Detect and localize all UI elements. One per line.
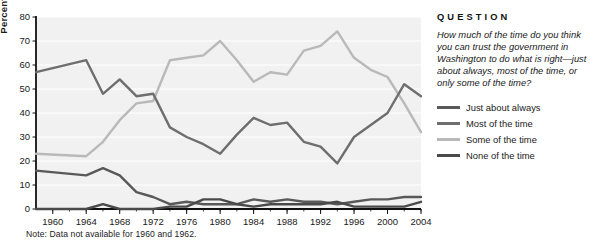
- svg-text:0: 0: [25, 203, 30, 214]
- legend-label-some-of-the-time: Some of the time: [466, 134, 537, 145]
- question-text: How much of the time do you think you ca…: [437, 29, 593, 89]
- legend-swatch-just-about-always: [437, 106, 460, 109]
- svg-text:2004: 2004: [410, 216, 431, 227]
- svg-text:1960: 1960: [42, 216, 63, 227]
- svg-text:1992: 1992: [310, 216, 331, 227]
- svg-text:2000: 2000: [377, 216, 398, 227]
- svg-text:1972: 1972: [143, 216, 164, 227]
- legend-item: Most of the time: [437, 116, 593, 130]
- question-heading: QUESTION: [437, 12, 593, 22]
- y-axis-title: Percentage: [0, 0, 9, 62]
- svg-text:70: 70: [19, 35, 30, 46]
- legend-swatch-none-of-the-time: [437, 154, 460, 157]
- svg-text:20: 20: [19, 155, 30, 166]
- legend-label-most-of-the-time: Most of the time: [466, 118, 533, 129]
- legend: Just about always Most of the time Some …: [437, 100, 593, 162]
- svg-text:1988: 1988: [277, 216, 298, 227]
- svg-text:50: 50: [19, 83, 30, 94]
- svg-text:10: 10: [19, 179, 30, 190]
- legend-swatch-some-of-the-time: [437, 138, 460, 141]
- legend-label-none-of-the-time: None of the time: [466, 150, 535, 161]
- legend-item: Some of the time: [437, 132, 593, 146]
- svg-text:1984: 1984: [243, 216, 264, 227]
- chart-note: Note: Data not available for 1960 and 19…: [26, 229, 197, 239]
- svg-text:30: 30: [19, 131, 30, 142]
- svg-text:60: 60: [19, 59, 30, 70]
- svg-text:1968: 1968: [109, 216, 130, 227]
- legend-swatch-most-of-the-time: [437, 122, 460, 125]
- svg-text:1964: 1964: [76, 216, 97, 227]
- svg-text:40: 40: [19, 107, 30, 118]
- svg-text:80: 80: [19, 11, 30, 22]
- legend-item: Just about always: [437, 100, 593, 114]
- svg-text:1980: 1980: [210, 216, 231, 227]
- legend-label-just-about-always: Just about always: [466, 102, 541, 113]
- question-panel: QUESTION How much of the time do you thi…: [437, 12, 593, 164]
- legend-item: None of the time: [437, 148, 593, 162]
- svg-text:1976: 1976: [176, 216, 197, 227]
- svg-text:1996: 1996: [343, 216, 364, 227]
